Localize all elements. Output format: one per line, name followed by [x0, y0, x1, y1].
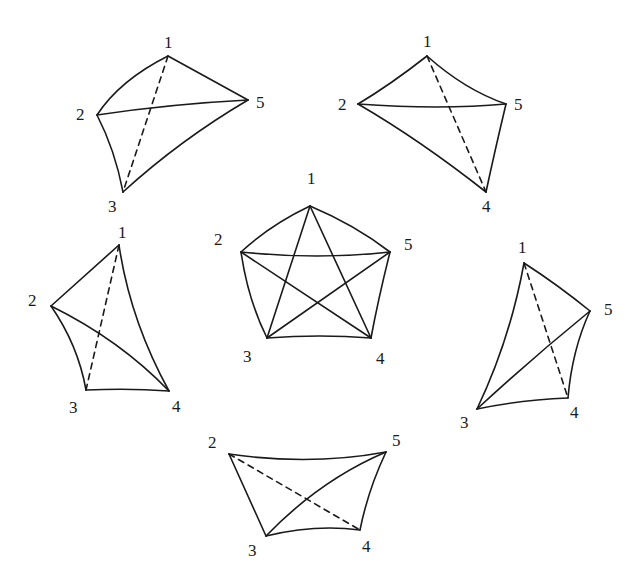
- edge: [486, 104, 506, 192]
- vertex-label-2: 2: [338, 95, 347, 114]
- edge: [524, 263, 590, 311]
- vertex-label-2: 2: [214, 230, 223, 249]
- edge: [267, 252, 390, 338]
- edge: [51, 306, 86, 390]
- vertex-label-5: 5: [514, 95, 523, 114]
- edge: [229, 454, 266, 536]
- graph-figure-bottom: 2345: [208, 431, 401, 560]
- edge: [51, 245, 119, 306]
- vertex-label-4: 4: [362, 537, 371, 556]
- edge: [123, 100, 248, 192]
- edge: [51, 306, 169, 391]
- vertex-label-3: 3: [243, 347, 252, 366]
- edge: [97, 56, 168, 115]
- edge: [266, 528, 360, 536]
- vertex-label-4: 4: [172, 397, 181, 416]
- edge: [168, 56, 248, 100]
- vertex-label-2: 2: [28, 291, 37, 310]
- vertex-label-5: 5: [604, 300, 613, 319]
- vertex-label-4: 4: [482, 197, 491, 216]
- vertex-label-4: 4: [570, 403, 579, 422]
- vertex-label-1: 1: [423, 32, 432, 51]
- edge: [86, 389, 169, 391]
- vertex-label-4: 4: [376, 349, 385, 368]
- edge: [241, 206, 310, 252]
- edge: [477, 398, 568, 409]
- vertex-label-3: 3: [69, 398, 78, 417]
- edge: [267, 336, 371, 338]
- graph-figure-top-right: 1245: [338, 32, 523, 216]
- dashed-edge: [86, 245, 119, 390]
- vertex-label-3: 3: [108, 197, 117, 216]
- vertex-label-3: 3: [460, 413, 469, 432]
- edge: [241, 252, 390, 256]
- vertex-label-5: 5: [404, 235, 413, 254]
- edge: [358, 104, 506, 107]
- edge: [97, 100, 248, 115]
- dashed-edge: [524, 263, 568, 398]
- graph-figure-left: 1234: [28, 223, 181, 417]
- vertex-label-1: 1: [118, 223, 127, 242]
- edge: [360, 452, 386, 530]
- dashed-edge: [427, 56, 486, 192]
- vertex-label-1: 1: [518, 238, 527, 257]
- graph-diagram-canvas: 1235124512345123413452345: [0, 0, 639, 582]
- vertex-label-1: 1: [164, 33, 173, 52]
- vertex-label-3: 3: [248, 541, 257, 560]
- vertex-label-1: 1: [307, 169, 316, 188]
- vertex-label-2: 2: [76, 105, 85, 124]
- edge: [119, 245, 169, 391]
- edge: [97, 115, 123, 192]
- edge: [568, 311, 590, 398]
- edge: [310, 206, 390, 252]
- edge: [241, 252, 267, 338]
- edge: [266, 452, 386, 536]
- edge: [371, 252, 390, 338]
- graph-figure-right: 1345: [460, 238, 613, 432]
- edge: [358, 56, 427, 104]
- vertex-label-5: 5: [392, 431, 401, 450]
- edge: [427, 56, 506, 104]
- dashed-edge: [229, 454, 360, 530]
- edge: [229, 452, 386, 460]
- graph-figure-top-left: 1235: [76, 33, 265, 216]
- vertex-label-5: 5: [256, 93, 265, 112]
- graph-figure-center: 12345: [214, 169, 413, 368]
- vertex-label-2: 2: [208, 433, 217, 452]
